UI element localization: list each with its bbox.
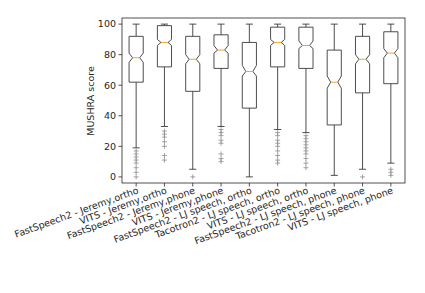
box-4 xyxy=(214,24,228,164)
box-body xyxy=(157,26,171,67)
outlier-point xyxy=(219,151,224,156)
outlier-point xyxy=(360,174,365,179)
outlier-point xyxy=(162,144,167,149)
box-body xyxy=(327,50,341,125)
y-tick-label: 80 xyxy=(104,49,116,60)
box-body xyxy=(384,32,398,84)
outlier-point xyxy=(219,159,224,164)
outlier-point xyxy=(162,158,167,163)
box-6 xyxy=(271,24,285,166)
y-axis-title: MUSHRA score xyxy=(85,66,96,136)
outlier-point xyxy=(275,144,280,149)
y-tick-label: 40 xyxy=(104,110,116,121)
box-7 xyxy=(299,24,313,170)
outlier-point xyxy=(134,165,139,170)
outlier-point xyxy=(275,148,280,153)
boxplot-chart: 020406080100 FastSpeech2 - Jeremy,orthoV… xyxy=(0,0,425,293)
outlier-point xyxy=(275,133,280,138)
box-10 xyxy=(384,24,398,178)
outlier-point xyxy=(162,153,167,158)
outlier-point xyxy=(275,153,280,158)
box-body xyxy=(355,36,369,93)
box-body xyxy=(186,36,200,91)
outlier-point xyxy=(275,161,280,166)
box-body xyxy=(299,27,313,68)
box-9 xyxy=(355,24,369,179)
y-axis: 020406080100 xyxy=(98,18,122,182)
outlier-point xyxy=(162,139,167,144)
outlier-point xyxy=(219,133,224,138)
outlier-point xyxy=(303,165,308,170)
outlier-point xyxy=(134,161,139,166)
y-tick-label: 100 xyxy=(98,18,116,29)
outlier-point xyxy=(303,156,308,161)
y-tick-label: 0 xyxy=(110,171,116,182)
x-axis: FastSpeech2 - Jeremy,orthoVITS - Jeremy,… xyxy=(13,183,395,246)
box-8 xyxy=(327,24,341,175)
outlier-point xyxy=(162,135,167,140)
box-body xyxy=(271,27,285,67)
outlier-point xyxy=(134,174,139,179)
outlier-point xyxy=(303,151,308,156)
y-tick-label: 20 xyxy=(104,141,116,152)
caption-fragment xyxy=(20,287,410,293)
outlier-point xyxy=(190,174,195,179)
outlier-point xyxy=(219,141,224,146)
box-body xyxy=(242,42,256,108)
box-1 xyxy=(129,24,143,179)
box-2 xyxy=(157,24,171,162)
outlier-point xyxy=(303,161,308,166)
box-body xyxy=(214,35,228,69)
y-tick-label: 60 xyxy=(104,80,116,91)
outlier-point xyxy=(388,173,393,178)
plot-area xyxy=(122,18,405,183)
box-3 xyxy=(186,24,200,179)
outlier-point xyxy=(134,170,139,175)
box-5 xyxy=(242,24,256,177)
box-body xyxy=(129,36,143,82)
